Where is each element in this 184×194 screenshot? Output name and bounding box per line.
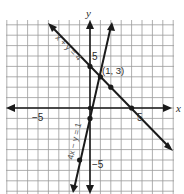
x-tick-neg5: −5 <box>32 112 44 123</box>
y-axis-arrow-down-icon <box>86 185 94 194</box>
point-0-4 <box>87 64 92 69</box>
point-4-0 <box>129 105 134 110</box>
point-2-2 <box>108 85 113 90</box>
intersection-label: (1, 3) <box>102 65 124 76</box>
point-neg1-neg5 <box>77 157 82 162</box>
x-axis-label: x <box>175 102 181 114</box>
x-axis-arrow-left-icon <box>6 104 15 112</box>
x-tick-pos5: 5 <box>137 112 143 123</box>
point-origin-crossing <box>88 106 92 110</box>
y-axis-label: y <box>85 7 91 19</box>
y-tick-neg5: −5 <box>92 159 104 170</box>
x-axis-arrow-right-icon <box>163 104 172 112</box>
equation-label-line2: 4x − y = 1 <box>65 122 83 161</box>
coordinate-plane: y x −5 5 5 −5 (1, 3) x + y = 4 4x − y = … <box>0 0 184 194</box>
line2-arrow-down-icon <box>70 184 78 193</box>
y-tick-pos5: 5 <box>92 51 98 62</box>
point-0-neg1 <box>87 116 92 121</box>
